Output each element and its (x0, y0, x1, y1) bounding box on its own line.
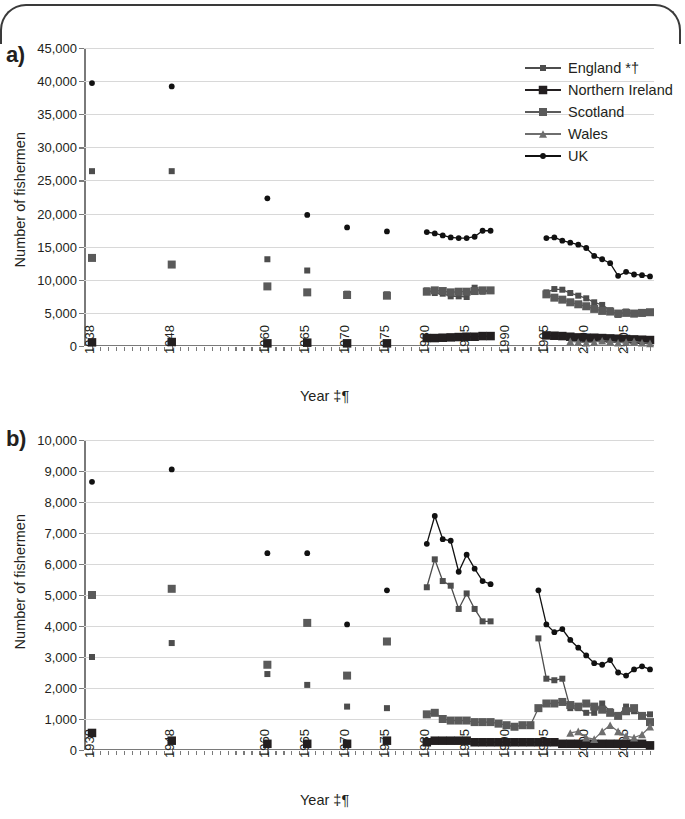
series-line (427, 559, 491, 621)
data-point (304, 268, 310, 274)
data-point (510, 738, 519, 747)
data-point (566, 740, 575, 749)
y-tick-label: 9,000 (44, 464, 77, 479)
y-tick-label: 45,000 (37, 41, 77, 56)
data-point (167, 338, 176, 347)
x-tick-mark (522, 751, 523, 755)
y-tick-label: 1,000 (44, 712, 77, 727)
data-point (559, 287, 565, 293)
data-point (89, 654, 95, 660)
data-point (89, 80, 95, 86)
data-point (550, 700, 558, 708)
data-point (536, 587, 542, 593)
data-point (431, 286, 439, 294)
data-point (423, 288, 431, 296)
y-tick-label: 3,000 (44, 650, 77, 665)
data-point (169, 84, 175, 90)
data-point (383, 292, 391, 300)
data-point (423, 738, 432, 747)
data-point (169, 467, 175, 473)
data-point (343, 740, 352, 749)
legend-item-scotland: Scotland (525, 102, 673, 122)
x-tick-mark (451, 751, 452, 755)
data-point (463, 288, 471, 296)
data-point (344, 704, 350, 710)
y-tick-label: 10,000 (37, 272, 77, 287)
x-tick-mark (132, 751, 133, 755)
data-point (543, 676, 549, 682)
data-point (510, 723, 518, 731)
data-point (432, 556, 438, 562)
data-point (456, 606, 462, 612)
data-point (518, 721, 526, 729)
data-point (598, 706, 606, 714)
data-point (431, 736, 440, 745)
x-tick-mark (220, 347, 221, 351)
y-tick-label: 30,000 (37, 140, 77, 155)
x-tick-mark (196, 347, 197, 351)
y-tick-label: 35,000 (37, 107, 77, 122)
x-tick-mark (188, 347, 189, 351)
data-point (89, 168, 95, 174)
x-tick-mark (602, 751, 603, 755)
x-tick-mark (283, 751, 284, 755)
y-tick-label: 40,000 (37, 74, 77, 89)
data-point (424, 541, 430, 547)
data-point (607, 260, 613, 266)
data-point (607, 657, 613, 663)
x-tick-mark (355, 347, 356, 351)
data-point (480, 228, 486, 234)
x-tick-mark (148, 751, 149, 755)
x-tick-mark (228, 751, 229, 755)
x-tick-mark (530, 751, 531, 755)
x-tick-mark (124, 347, 125, 351)
data-point (646, 741, 655, 750)
data-point (502, 738, 511, 747)
data-point (488, 228, 494, 234)
x-tick-mark (522, 347, 523, 351)
y-tick-label: 7,000 (44, 526, 77, 541)
data-point (550, 331, 559, 340)
data-point (447, 717, 455, 725)
data-point (622, 740, 631, 749)
x-tick-mark (650, 751, 651, 755)
x-tick-mark (475, 751, 476, 755)
legend-label-uk: UK (568, 149, 588, 164)
x-tick-mark (116, 347, 117, 351)
x-tick-mark (562, 347, 563, 351)
data-point (647, 667, 653, 673)
data-point (574, 300, 582, 308)
x-tick-mark (188, 751, 189, 755)
data-point (384, 229, 390, 235)
x-tick-mark (235, 347, 236, 351)
x-tick-mark (100, 751, 101, 755)
data-point (439, 715, 447, 723)
data-point (582, 302, 590, 310)
x-tick-mark (443, 347, 444, 351)
data-point (535, 635, 541, 641)
data-point (486, 738, 495, 747)
data-point (454, 736, 463, 745)
y-tick-label: 25,000 (37, 173, 77, 188)
data-point (638, 740, 647, 749)
x-tick-mark (570, 751, 571, 755)
data-point (623, 673, 629, 679)
data-point (448, 234, 454, 240)
data-point (304, 212, 310, 218)
data-point (479, 286, 487, 294)
data-point (583, 653, 589, 659)
x-tick-mark (100, 347, 101, 351)
data-point (446, 736, 455, 745)
x-tick-mark (403, 751, 404, 755)
data-point (526, 721, 534, 729)
x-tick-mark (140, 347, 141, 351)
data-point (383, 638, 391, 646)
x-tick-mark (212, 347, 213, 351)
data-point (622, 707, 630, 715)
data-point (263, 740, 272, 749)
x-tick-mark (403, 347, 404, 351)
data-point (447, 288, 455, 296)
x-tick-mark (554, 751, 555, 755)
data-point (574, 703, 582, 711)
data-point (550, 738, 559, 747)
